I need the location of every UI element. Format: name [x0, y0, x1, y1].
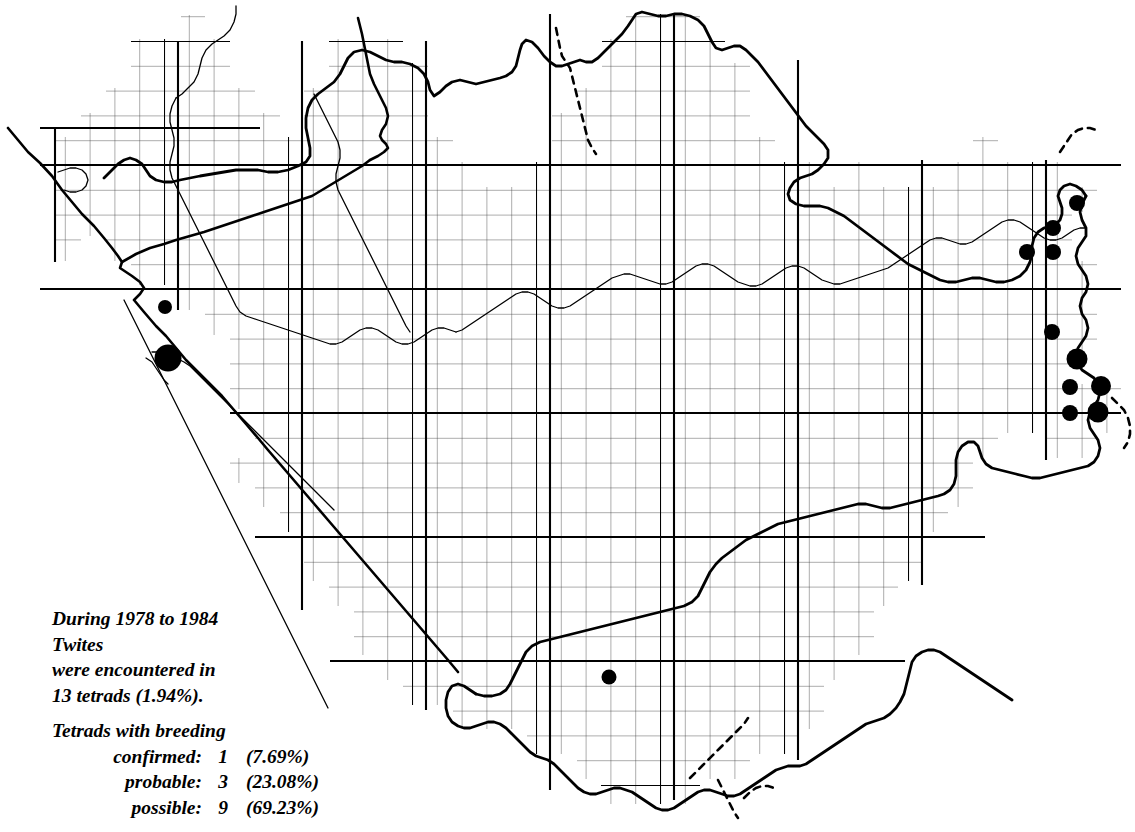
breeding-count-possible: 9	[210, 795, 236, 821]
breeding-label-possible: possible:	[52, 795, 210, 821]
breeding-row-probable: probable: 3 (23.08%)	[52, 769, 382, 795]
breeding-block: Tetrads with breeding confirmed: 1 (7.69…	[52, 718, 382, 820]
record-dot	[1088, 402, 1109, 423]
caption-line-3: were encountered in	[52, 657, 382, 683]
record-dot	[1044, 324, 1060, 340]
record-dot	[1062, 405, 1078, 421]
record-dot	[602, 670, 617, 685]
record-dot	[1045, 244, 1061, 260]
breeding-count-probable: 3	[210, 769, 236, 795]
breeding-percent-possible: (69.23%)	[236, 795, 319, 821]
record-dot	[1019, 244, 1035, 260]
record-dot	[1091, 376, 1111, 396]
record-dot	[1062, 379, 1078, 395]
record-dot	[1045, 220, 1061, 236]
breeding-percent-confirmed: (7.69%)	[236, 744, 309, 770]
caption-line-1: During 1978 to 1984	[52, 606, 382, 632]
record-dot	[1067, 349, 1088, 370]
map-caption: During 1978 to 1984 Twites were encounte…	[52, 606, 382, 820]
breeding-row-possible: possible: 9 (69.23%)	[52, 795, 382, 821]
caption-line-4: 13 tetrads (1.94%).	[52, 683, 382, 709]
breeding-label-confirmed: confirmed:	[52, 744, 210, 770]
breeding-heading: Tetrads with breeding	[52, 718, 382, 744]
breeding-count-confirmed: 1	[210, 744, 236, 770]
breeding-label-probable: probable:	[52, 769, 210, 795]
caption-line-2: Twites	[52, 632, 382, 658]
record-dot	[158, 300, 172, 314]
breeding-row-confirmed: confirmed: 1 (7.69%)	[52, 744, 382, 770]
record-dot	[155, 345, 182, 372]
map-page: During 1978 to 1984 Twites were encounte…	[0, 0, 1135, 832]
breeding-percent-probable: (23.08%)	[236, 769, 319, 795]
record-dot	[1069, 195, 1085, 211]
